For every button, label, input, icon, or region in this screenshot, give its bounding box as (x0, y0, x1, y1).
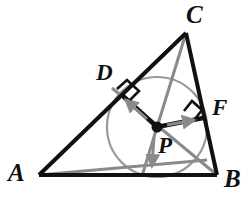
vertex-label-a: A (8, 160, 25, 185)
arrow-toward-d (126, 100, 147, 119)
geometry-figure: C A B D F P (0, 0, 248, 199)
incenter-point (152, 122, 163, 133)
geometry-canvas (0, 0, 248, 199)
point-label-d: D (96, 61, 113, 84)
right-angle-mark-f (184, 101, 202, 119)
vertex-label-c: C (186, 2, 203, 27)
point-label-p: P (158, 134, 172, 157)
arrow-toward-e (152, 137, 154, 166)
point-label-f: F (212, 96, 227, 119)
vertex-label-b: B (224, 166, 241, 191)
